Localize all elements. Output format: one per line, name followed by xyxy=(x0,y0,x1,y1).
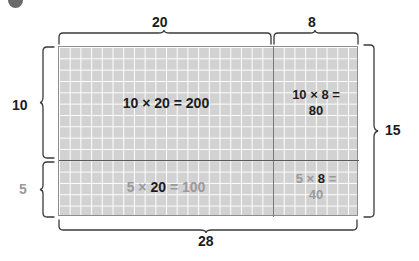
cell-top-right-label: 10 × 8 = 80 xyxy=(273,87,359,120)
brace-right-15 xyxy=(364,44,378,218)
brace-left-5 xyxy=(40,161,54,218)
cell-bottom-right-part1: 5 × xyxy=(296,171,318,186)
dimension-bottom-total: 28 xyxy=(198,233,214,249)
dimension-top-left: 20 xyxy=(152,14,168,30)
brace-top-20 xyxy=(58,30,272,44)
brace-left-10 xyxy=(40,46,54,159)
cell-top-left-label: 10 × 20 = 200 xyxy=(59,95,273,113)
dimension-left-upper: 10 xyxy=(12,97,28,113)
circle-bullet-icon xyxy=(8,0,23,8)
cell-bottom-right-part2: 8 xyxy=(318,171,325,186)
brace-bottom-28 xyxy=(58,220,358,234)
cell-bottom-right-label: 5 × 8 = 40 xyxy=(273,171,359,204)
brace-top-8 xyxy=(273,30,359,44)
area-model-diagram: 20 8 10 5 15 28 10 × 20 = 200 xyxy=(0,0,419,261)
cell-top-right-line2: 80 xyxy=(309,103,323,118)
area-model-grid: 10 × 20 = 200 10 × 8 = 80 5 × 20 = 100 5… xyxy=(58,46,358,216)
cell-bottom-right-part3: = xyxy=(325,171,336,186)
vertical-divider xyxy=(273,47,274,217)
cell-bottom-left-label: 5 × 20 = 100 xyxy=(59,179,273,197)
cell-top-right-line1: 10 × 8 = xyxy=(292,87,340,102)
cell-bottom-left-part1: 5 × xyxy=(127,179,151,195)
cell-bottom-right-line2: 40 xyxy=(309,187,323,202)
dimension-left-lower: 5 xyxy=(19,181,27,197)
horizontal-divider xyxy=(59,160,359,161)
dimension-right-total: 15 xyxy=(385,122,401,138)
cell-bottom-left-part2: 20 xyxy=(150,179,166,195)
dimension-top-right: 8 xyxy=(308,14,316,30)
cell-bottom-left-part3: = 100 xyxy=(166,179,205,195)
cell-top-left-text: 10 × 20 = 200 xyxy=(123,95,209,111)
